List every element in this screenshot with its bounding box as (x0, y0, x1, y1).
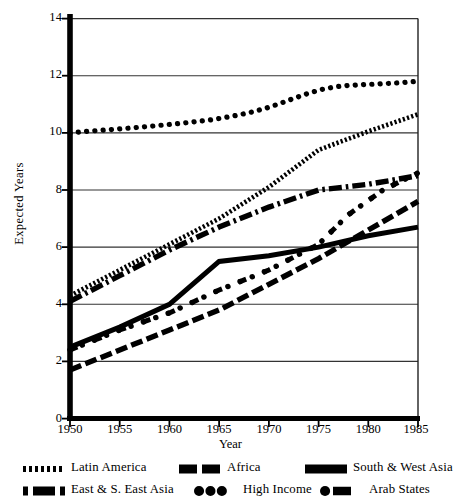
legend-item-africa[interactable]: Africa (178, 458, 261, 476)
series-line-latin-america (70, 114, 418, 295)
legend-row-2: East & S. East Asia High Income Ara (0, 480, 461, 500)
legend-label-latin-america: Latin America (71, 460, 147, 474)
fine-dotted-swatch (22, 461, 66, 473)
chart-legend: Latin America Africa South & West Asia (0, 458, 461, 502)
x-tick-1950: 1950 (45, 422, 95, 436)
chart-figure: 14 12 10 8 6 4 2 0 1950 1955 1960 1965 1… (0, 0, 461, 504)
x-tick-1975: 1975 (294, 422, 344, 436)
legend-label-arab-states: Arab States (369, 482, 430, 496)
dash-dot-swatch (22, 483, 66, 495)
y-axis-title: Expected Years (12, 139, 27, 269)
round-dotted-swatch (194, 483, 238, 495)
series-line-high-income (70, 81, 418, 133)
legend-label-high-income: High Income (243, 482, 312, 496)
series-line-africa (70, 201, 418, 370)
x-tick-1960: 1960 (144, 422, 194, 436)
x-tick-1965: 1965 (194, 422, 244, 436)
y-tick-6: 6 (36, 240, 62, 252)
y-tick-4: 4 (36, 297, 62, 309)
y-tick-2: 2 (36, 354, 62, 366)
legend-label-east-se-asia: East & S. East Asia (71, 482, 174, 496)
legend-item-high-income[interactable]: High Income (194, 480, 312, 498)
x-tick-1985: 1985 (391, 422, 441, 436)
gridlines (70, 19, 418, 362)
legend-label-africa: Africa (227, 460, 261, 474)
legend-item-latin-america[interactable]: Latin America (22, 458, 147, 476)
x-axis-title: Year (0, 437, 461, 452)
plot-area: 14 12 10 8 6 4 2 0 1950 1955 1960 1965 1… (0, 0, 461, 430)
y-tick-14: 14 (36, 11, 62, 23)
x-tick-1980: 1980 (343, 422, 393, 436)
chart-canvas (0, 0, 461, 430)
legend-item-south-west-asia[interactable]: South & West Asia (304, 458, 453, 476)
x-tick-1970: 1970 (244, 422, 294, 436)
dot-dash-round-swatch (320, 483, 364, 495)
solid-swatch (304, 461, 348, 473)
x-tick-1955: 1955 (95, 422, 145, 436)
legend-item-east-se-asia[interactable]: East & S. East Asia (22, 480, 174, 498)
long-dash-swatch (178, 461, 222, 473)
legend-row-1: Latin America Africa South & West Asia (0, 458, 461, 478)
y-tick-8: 8 (36, 183, 62, 195)
y-tick-12: 12 (36, 68, 62, 80)
legend-item-arab-states[interactable]: Arab States (320, 480, 430, 498)
legend-label-south-west-asia: South & West Asia (353, 460, 453, 474)
y-tick-10: 10 (36, 125, 62, 137)
